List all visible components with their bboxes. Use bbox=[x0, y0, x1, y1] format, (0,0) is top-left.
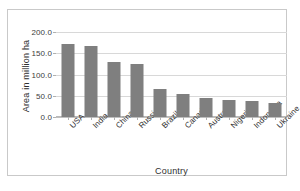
bar-chart-figure: Area in million ha 200.0 150.0 100.0 50.… bbox=[0, 0, 294, 191]
x-tick-australia bbox=[206, 117, 207, 120]
x-axis-title: Country bbox=[56, 166, 287, 176]
y-tick-label-0: 0.0 bbox=[41, 113, 52, 122]
bar-slot-indonesia: Indonesia bbox=[241, 32, 264, 117]
x-tick-china bbox=[114, 117, 115, 120]
x-tick-canada bbox=[183, 117, 184, 120]
y-tick-label-200: 200.0 bbox=[31, 28, 52, 37]
bar-nigeria[interactable] bbox=[223, 100, 236, 117]
y-tick-label-150: 150.0 bbox=[31, 49, 52, 58]
bar-slot-india: India bbox=[79, 32, 102, 117]
bar-slot-usa: USA bbox=[56, 32, 79, 117]
bar-ukraine[interactable] bbox=[269, 103, 282, 117]
x-tick-indonesia bbox=[252, 117, 253, 120]
bar-australia[interactable] bbox=[200, 98, 213, 117]
x-tick-nigeria bbox=[229, 117, 230, 120]
bar-slot-china: China bbox=[102, 32, 125, 117]
bar-canada[interactable] bbox=[177, 94, 190, 117]
x-tick-ukraine bbox=[275, 117, 276, 120]
y-tick-mark-0 bbox=[53, 117, 56, 118]
y-tick-label-50: 50.0 bbox=[36, 91, 52, 100]
x-tick-usa bbox=[68, 117, 69, 120]
bar-russia[interactable] bbox=[130, 64, 143, 117]
chart-plot-frame: Area in million ha 200.0 150.0 100.0 50.… bbox=[7, 9, 287, 176]
x-tick-brazil bbox=[160, 117, 161, 120]
y-tick-label-100: 100.0 bbox=[31, 70, 52, 79]
bar-slot-ukraine: Ukraine bbox=[264, 32, 287, 117]
x-tick-russia bbox=[137, 117, 138, 120]
bar-indonesia[interactable] bbox=[246, 101, 259, 117]
bar-slot-brazil: Brazil bbox=[148, 32, 171, 117]
bar-slot-nigeria: Nigeria bbox=[218, 32, 241, 117]
x-tick-india bbox=[91, 117, 92, 120]
y-axis-title-text: Area in million ha bbox=[21, 40, 31, 113]
bar-india[interactable] bbox=[84, 46, 97, 117]
bar-slot-australia: Australia bbox=[195, 32, 218, 117]
bar-slot-russia: Russia bbox=[125, 32, 148, 117]
bar-brazil[interactable] bbox=[153, 89, 166, 117]
bar-usa[interactable] bbox=[61, 44, 74, 117]
bar-china[interactable] bbox=[107, 62, 120, 117]
bars-layer: USA India China Russia bbox=[56, 32, 287, 117]
bar-slot-canada: Canada bbox=[172, 32, 195, 117]
plot-area: 200.0 150.0 100.0 50.0 0.0 bbox=[56, 32, 287, 117]
